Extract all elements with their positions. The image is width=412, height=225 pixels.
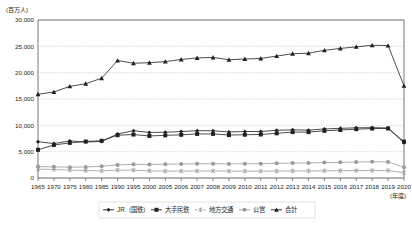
y-axis-tick-label: 5,000: [19, 148, 35, 155]
x-axis-tick-label: 2012: [270, 183, 284, 190]
data-point: [354, 127, 358, 131]
x-axis-tick-label: 2019: [381, 183, 395, 190]
series-1: [36, 126, 406, 146]
x-axis-tick-label: 2008: [206, 183, 220, 190]
x-axis-tick-label: 2018: [365, 183, 379, 190]
data-point: [354, 160, 358, 164]
data-point: [84, 139, 88, 143]
x-axis-tick-label: 2000: [143, 183, 157, 190]
y-axis-tick-label: 20,000: [15, 69, 34, 76]
x-axis-tick-label: 2016: [333, 183, 347, 190]
data-point: [52, 165, 56, 169]
data-point: [52, 143, 56, 147]
data-point: [68, 165, 72, 169]
data-point: [211, 162, 215, 166]
legend-label-3[interactable]: 地方交通: [209, 205, 234, 214]
x-axis-tick-label: 2009: [222, 183, 236, 190]
x-axis-tick-label: 2005: [158, 183, 172, 190]
data-point: [243, 133, 247, 137]
x-axis-tick-label: 2017: [349, 183, 363, 190]
data-point: [163, 162, 167, 166]
data-point: [243, 162, 247, 166]
x-axis-unit-label: (年度): [390, 192, 406, 200]
x-axis-tick-label: 2007: [190, 183, 204, 190]
data-point: [227, 162, 231, 166]
series-4: [36, 160, 406, 169]
rail-passenger-line-chart: (百万人)05,00010,00015,00020,00025,00030,00…: [0, 0, 412, 225]
data-point: [116, 163, 120, 167]
x-axis-tick-label: 1980: [79, 183, 93, 190]
legend-label-1[interactable]: JR（国鉄）: [117, 205, 149, 214]
data-point: [386, 160, 390, 164]
x-axis-tick-label: 2015: [318, 183, 332, 190]
y-axis-tick-label: 10,000: [15, 122, 34, 129]
x-axis-tick-label: 1995: [127, 183, 141, 190]
chart-canvas: (百万人)05,00010,00015,00020,00025,00030,00…: [0, 0, 412, 225]
data-point: [402, 140, 406, 144]
x-axis-tick-label: 1965: [31, 183, 45, 190]
data-point: [386, 127, 390, 131]
data-point: [259, 132, 263, 136]
data-point: [307, 130, 311, 134]
data-point: [259, 162, 263, 166]
data-point: [211, 132, 215, 136]
data-point: [115, 58, 120, 62]
x-axis-tick-label: 2014: [302, 183, 316, 190]
data-point: [402, 83, 407, 87]
x-axis-tick-label: 2010: [238, 183, 252, 190]
data-point: [370, 127, 374, 131]
y-axis-tick-label: 30,000: [15, 16, 34, 23]
legend-label-5[interactable]: 合計: [285, 205, 298, 214]
data-point: [68, 141, 72, 145]
data-point: [322, 129, 326, 133]
data-point: [131, 129, 135, 133]
data-point: [402, 165, 406, 169]
data-point: [100, 164, 104, 168]
x-axis-tick-label: 2011: [254, 183, 268, 190]
chart-legend: JR（国鉄）大手民鉄地方交通公営合計: [99, 202, 315, 218]
x-axis-tick-label: 1990: [111, 183, 125, 190]
x-axis-tick-label: 1985: [95, 183, 109, 190]
legend-label-4[interactable]: 公営: [253, 205, 265, 214]
data-point: [36, 140, 40, 144]
x-axis-tick-label: 2013: [286, 183, 300, 190]
x-axis-tick-label: 1970: [47, 183, 61, 190]
data-point: [307, 161, 311, 165]
data-point: [131, 162, 135, 166]
data-point: [195, 132, 199, 136]
data-point: [338, 160, 342, 164]
series-line: [38, 162, 404, 167]
y-axis-tick-label: 25,000: [15, 43, 34, 50]
data-point: [147, 130, 151, 134]
series-line: [38, 45, 404, 94]
y-axis-tick-label: 0: [31, 174, 35, 181]
data-point: [291, 161, 295, 165]
series-5: [36, 43, 407, 96]
x-axis-tick-label: 1975: [63, 183, 77, 190]
data-point: [179, 133, 183, 137]
data-point: [147, 134, 151, 138]
data-point: [163, 133, 167, 137]
x-axis-tick-label: 2006: [174, 183, 188, 190]
data-point: [147, 163, 151, 167]
data-point: [227, 133, 231, 137]
data-point: [275, 161, 279, 165]
data-point: [322, 161, 326, 165]
x-axis-tick-label: 2020: [397, 183, 411, 190]
legend-label-2[interactable]: 大手民鉄: [165, 205, 190, 214]
legend-marker-4: [243, 208, 247, 212]
data-point: [291, 130, 295, 134]
data-point: [275, 131, 279, 135]
data-point: [36, 148, 40, 152]
data-point: [131, 133, 135, 137]
data-point: [36, 165, 40, 169]
data-point: [179, 162, 183, 166]
data-point: [116, 133, 120, 137]
y-axis-unit-label: (百万人): [6, 6, 28, 14]
data-point: [84, 165, 88, 169]
series-3: [36, 167, 406, 175]
series-2: [36, 127, 406, 152]
y-axis-tick-label: 15,000: [15, 95, 34, 102]
data-point: [195, 162, 199, 166]
legend-marker-2: [155, 208, 159, 212]
